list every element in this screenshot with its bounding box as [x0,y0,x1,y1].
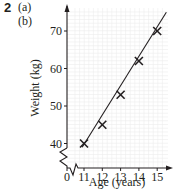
y-tick-label: 60 [50,62,62,76]
y-tick-label: 40 [50,137,62,151]
x-axis-title: Age (years) [89,175,145,189]
y-tick-label: 50 [50,99,62,113]
x-tick-label: 0 [64,170,70,184]
grid [67,8,168,168]
x-tick-label: 15 [151,170,163,184]
scatter-chart: 4050607001112131415 Age (years) Weight (… [0,0,174,192]
y-axis-title: Weight (kg) [28,59,42,116]
y-tick-label: 70 [50,24,62,38]
